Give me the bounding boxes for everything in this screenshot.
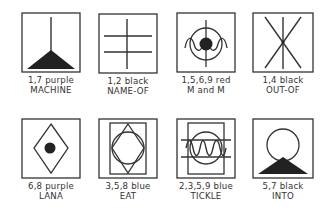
symbol-code: 3,5,8 blue: [90, 181, 166, 191]
symbol-machine: 1,7 purple MACHINE: [13, 12, 89, 95]
symbol-code: 5,7 black: [245, 181, 321, 191]
symbol-m-and-m: 1,5,6,9 red M and M: [168, 12, 244, 95]
symbol-name: INTO: [245, 191, 321, 201]
symbol-name: OUT-OF: [245, 85, 321, 95]
symbol-code: 1,7 purple: [13, 75, 89, 85]
symbol-name-of: 1,2 black NAME-OF: [90, 13, 166, 96]
symbol-name: LANA: [13, 191, 89, 201]
lana-icon: [21, 118, 81, 179]
symbol-tickle: 2,3,5,9 blue TICKLE: [168, 118, 244, 201]
eat-icon: [98, 118, 158, 179]
tickle-icon: [176, 118, 236, 179]
name-of-icon: [98, 13, 158, 74]
symbol-name: EAT: [90, 191, 166, 201]
symbol-name: NAME-OF: [90, 86, 166, 96]
into-icon: [252, 118, 314, 179]
symbol-into: 5,7 black INTO: [245, 118, 321, 201]
out-of-icon: [252, 12, 314, 73]
symbol-lana: 6,8 purple LANA: [13, 118, 89, 201]
symbol-code: 1,5,6,9 red: [168, 75, 244, 85]
symbol-eat: 3,5,8 blue EAT: [90, 118, 166, 201]
symbol-name: M and M: [168, 85, 244, 95]
symbol-out-of: 1,4 black OUT-OF: [245, 12, 321, 95]
symbol-code: 6,8 purple: [13, 181, 89, 191]
symbol-name: MACHINE: [13, 85, 89, 95]
symbol-name: TICKLE: [168, 191, 244, 201]
symbol-code: 1,4 black: [245, 75, 321, 85]
symbol-code: 1,2 black: [90, 76, 166, 86]
symbol-code: 2,3,5,9 blue: [168, 181, 244, 191]
m-and-m-icon: [176, 12, 236, 73]
machine-icon: [21, 12, 81, 73]
